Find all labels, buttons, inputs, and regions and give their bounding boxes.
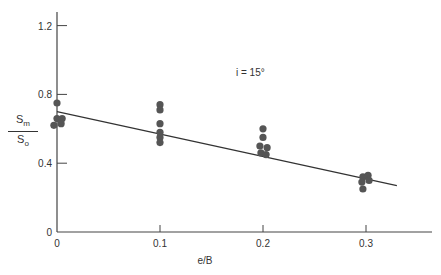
y-tick-label: 0.8 [38, 89, 52, 100]
data-point [259, 125, 266, 132]
y-label-denominator: So [8, 132, 38, 150]
data-point [359, 185, 366, 192]
data-point [256, 142, 263, 149]
x-axis-label: e/B [197, 255, 212, 266]
axes [57, 12, 432, 232]
scatter-chart: 00.40.81.200.10.20.3 i = 15° e/B [0, 0, 441, 275]
x-tick-label: 0 [54, 238, 60, 249]
data-point [365, 177, 372, 184]
y-tick-label: 0 [46, 227, 52, 238]
y-label-numerator: Sm [8, 113, 38, 132]
data-points [50, 99, 372, 192]
axis-ticks: 00.40.81.200.10.20.3 [38, 21, 373, 249]
y-tick-label: 0.4 [38, 158, 52, 169]
data-point [156, 120, 163, 127]
data-point [58, 120, 65, 127]
data-point [53, 99, 60, 106]
trend-line [57, 112, 397, 186]
data-point [156, 106, 163, 113]
inclination-annotation: i = 15° [236, 67, 265, 78]
x-tick-label: 0.2 [256, 238, 270, 249]
x-tick-label: 0.1 [153, 238, 167, 249]
data-point [259, 134, 266, 141]
data-point [262, 151, 269, 158]
data-point [50, 122, 57, 129]
data-point [358, 179, 365, 186]
y-axis-label: Sm So [8, 113, 38, 150]
data-point [156, 139, 163, 146]
y-tick-label: 1.2 [38, 21, 52, 32]
data-point [264, 144, 271, 151]
x-tick-label: 0.3 [359, 238, 373, 249]
